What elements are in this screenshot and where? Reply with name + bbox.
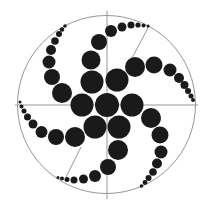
dot-ring — [121, 94, 144, 117]
dot-arm-top — [105, 25, 117, 37]
diagonal-bottom-left-line — [66, 147, 81, 177]
dot-center — [95, 93, 119, 117]
dot-arm-left — [29, 120, 38, 129]
dot-arm-right — [174, 73, 184, 83]
dot-arm-lower-right — [141, 108, 161, 128]
dot-ring — [108, 116, 131, 139]
diagonal-top-right-line — [131, 26, 149, 60]
dot-arm-top — [82, 51, 101, 70]
dot-arm-upper-left — [60, 27, 65, 32]
dot-arm-bottom — [79, 175, 88, 184]
dot-arm-lower-right — [140, 184, 144, 188]
dot-arm-right — [185, 88, 191, 94]
spiral-circle-diagram — [0, 0, 207, 210]
dot-arm-bottom — [89, 170, 101, 182]
dot-ring — [84, 116, 107, 139]
dot-arm-left — [48, 129, 64, 145]
dot-arm-bottom — [71, 177, 78, 184]
dot-arm-lower-right — [152, 127, 169, 144]
dot-arm-bottom — [65, 177, 70, 182]
dot-arm-left — [24, 114, 31, 121]
dot-arm-upper-left — [63, 24, 67, 28]
dot-arm-left — [22, 109, 27, 114]
dot-arm-lower-right — [152, 159, 162, 169]
dot-arm-top — [147, 25, 150, 28]
dot-arm-right — [146, 57, 163, 74]
dot-arm-bottom — [108, 140, 128, 160]
dot-arm-right — [125, 57, 145, 77]
dot-arm-upper-left — [51, 37, 59, 45]
dot-arm-lower-right — [155, 146, 168, 159]
dot-arm-right — [191, 98, 195, 102]
dot-arm-left — [19, 101, 22, 104]
dot-arm-lower-right — [146, 175, 152, 181]
dot-ring — [71, 94, 94, 117]
dot-arm-top — [118, 23, 127, 32]
dot-arm-bottom — [57, 176, 60, 179]
dot-ring — [81, 71, 104, 94]
dot-arm-top — [91, 34, 107, 50]
dot-arm-lower-right — [149, 168, 157, 176]
dot-arm-left — [20, 105, 24, 109]
dot-arm-upper-left — [56, 31, 62, 37]
diagram-canvas — [0, 0, 207, 210]
dot-arm-right — [189, 94, 194, 99]
dot-arm-right — [164, 64, 177, 77]
dot-arm-lower-right — [143, 180, 148, 185]
dot-arm-left — [65, 127, 85, 147]
dot-arm-bottom — [60, 177, 64, 181]
dot-arm-upper-left — [52, 83, 72, 103]
dot-arm-upper-left — [46, 45, 56, 55]
dot-arm-bottom — [100, 159, 116, 175]
dot-arm-upper-left — [44, 69, 60, 85]
dot-arm-top — [135, 22, 140, 27]
dot-arm-left — [36, 126, 48, 138]
dot-arm-top — [128, 22, 135, 29]
dot-ring — [106, 69, 129, 92]
dot-arm-top — [142, 24, 146, 28]
dot-arm-right — [181, 81, 189, 89]
dot-arm-upper-left — [43, 56, 56, 69]
